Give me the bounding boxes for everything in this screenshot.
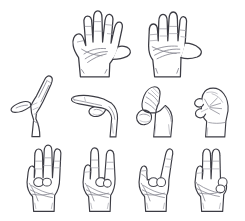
hand-four-fingers-thumb-out [133,6,205,78]
hand-closed-fist-thumb-side [127,82,183,138]
hand-two-fingers-together [184,142,242,214]
hand-index-up-thumb-out-side [6,70,68,138]
hand-three-fingers-up [16,142,74,214]
hand-open-palm-spread [60,6,132,78]
hand-two-fingers-split [72,142,130,214]
hand-horns-index-pinky [128,142,186,214]
hand-gesture-sheet [0,0,245,221]
hand-closed-fist-front [185,82,239,138]
hand-index-pointing-side [66,82,128,138]
